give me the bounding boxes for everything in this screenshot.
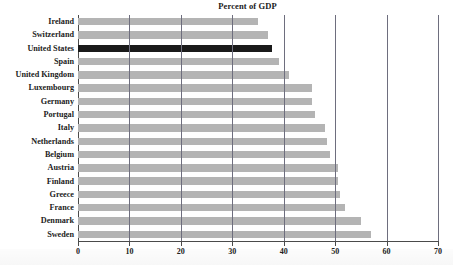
chart-row: Switzerland bbox=[78, 28, 438, 41]
chart-row: United Kingdom bbox=[78, 68, 438, 81]
category-label-spain: Spain bbox=[54, 55, 74, 68]
bar-switzerland bbox=[78, 31, 268, 38]
chart-row: Italy bbox=[78, 121, 438, 134]
chart-title: Percent of GDP bbox=[0, 1, 453, 11]
category-label-germany: Germany bbox=[41, 95, 74, 108]
chart-row: Spain bbox=[78, 55, 438, 68]
category-label-sweden: Sweden bbox=[47, 228, 74, 241]
category-label-belgium: Belgium bbox=[45, 148, 74, 161]
chart-row: Netherlands bbox=[78, 135, 438, 148]
bar-united-kingdom bbox=[78, 71, 289, 78]
chart-row: Ireland bbox=[78, 15, 438, 28]
category-label-denmark: Denmark bbox=[41, 214, 74, 227]
bar-germany bbox=[78, 98, 312, 105]
bar-france bbox=[78, 204, 345, 211]
x-tick-20 bbox=[181, 241, 182, 246]
chart-row: Luxembourg bbox=[78, 81, 438, 94]
category-label-austria: Austria bbox=[48, 161, 74, 174]
x-tick-label-30: 30 bbox=[228, 247, 236, 256]
gridline-10 bbox=[129, 15, 130, 241]
gridline-70 bbox=[438, 15, 439, 241]
chart-row: Sweden bbox=[78, 228, 438, 241]
x-tick-30 bbox=[232, 241, 233, 246]
bar-sweden bbox=[78, 231, 371, 238]
category-label-netherlands: Netherlands bbox=[31, 135, 74, 148]
category-label-greece: Greece bbox=[50, 188, 74, 201]
x-tick-40 bbox=[284, 241, 285, 246]
x-tick-10 bbox=[129, 241, 130, 246]
category-label-switzerland: Switzerland bbox=[32, 28, 74, 41]
x-tick-label-40: 40 bbox=[280, 247, 288, 256]
x-tick-label-10: 10 bbox=[125, 247, 133, 256]
category-label-united-states: United States bbox=[27, 42, 74, 55]
x-tick-label-50: 50 bbox=[331, 247, 339, 256]
x-tick-label-70: 70 bbox=[434, 247, 442, 256]
gridline-30 bbox=[232, 15, 233, 241]
x-axis-line bbox=[78, 241, 439, 242]
category-label-france: France bbox=[49, 201, 74, 214]
bar-finland bbox=[78, 177, 338, 184]
chart-row: Denmark bbox=[78, 214, 438, 227]
bar-chart: Percent of GDP IrelandSwitzerlandUnited … bbox=[0, 0, 453, 265]
x-tick-label-0: 0 bbox=[76, 247, 80, 256]
gridline-20 bbox=[181, 15, 182, 241]
chart-row: France bbox=[78, 201, 438, 214]
category-label-united-kingdom: United Kingdom bbox=[16, 68, 74, 81]
bar-luxembourg bbox=[78, 84, 312, 91]
bar-netherlands bbox=[78, 138, 327, 145]
x-tick-label-20: 20 bbox=[177, 247, 185, 256]
category-label-italy: Italy bbox=[58, 121, 74, 134]
category-label-portugal: Portugal bbox=[44, 108, 74, 121]
bar-greece bbox=[78, 191, 340, 198]
category-label-ireland: Ireland bbox=[48, 15, 74, 28]
x-tick-70 bbox=[438, 241, 439, 246]
bar-belgium bbox=[78, 151, 330, 158]
bar-denmark bbox=[78, 217, 361, 224]
chart-row: Greece bbox=[78, 188, 438, 201]
x-tick-label-60: 60 bbox=[383, 247, 391, 256]
bar-spain bbox=[78, 58, 279, 65]
chart-row: United States bbox=[78, 42, 438, 55]
x-tick-50 bbox=[335, 241, 336, 246]
x-tick-60 bbox=[387, 241, 388, 246]
bar-austria bbox=[78, 164, 338, 171]
gridline-40 bbox=[284, 15, 285, 241]
bar-united-states bbox=[78, 45, 272, 53]
category-label-luxembourg: Luxembourg bbox=[29, 81, 75, 94]
gridline-50 bbox=[335, 15, 336, 241]
chart-row: Germany bbox=[78, 95, 438, 108]
bar-ireland bbox=[78, 18, 258, 25]
chart-row: Finland bbox=[78, 175, 438, 188]
chart-row: Austria bbox=[78, 161, 438, 174]
chart-row: Portugal bbox=[78, 108, 438, 121]
x-tick-0 bbox=[78, 241, 79, 246]
bar-portugal bbox=[78, 111, 315, 118]
chart-row: Belgium bbox=[78, 148, 438, 161]
bar-italy bbox=[78, 124, 325, 131]
plot-area: IrelandSwitzerlandUnited StatesSpainUnit… bbox=[78, 15, 438, 241]
category-label-finland: Finland bbox=[47, 175, 74, 188]
gridline-60 bbox=[387, 15, 388, 241]
